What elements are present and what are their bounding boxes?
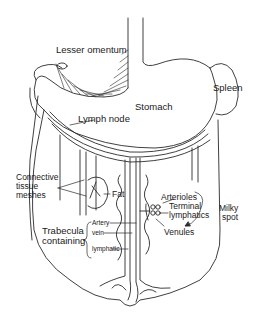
label-venules: Venules [164,228,194,237]
label-connective-3: meshes [16,191,46,200]
label-lymphatic: lymphatic [92,246,119,253]
label-vein: vein [92,230,104,237]
label-terminal-2: lymphatics [169,211,209,220]
label-milky-2: spot [222,213,238,222]
label-artery: Artery [92,220,109,227]
label-lesser-omentum: Lesser omentum [56,45,127,55]
label-lymph-node: Lymph node [78,114,130,124]
omentum-diagram: Lesser omentum Stomach Spleen Lymph node… [0,0,254,320]
label-stomach: Stomach [135,102,173,112]
anatomy-line-art [0,0,254,320]
label-spleen: Spleen [213,83,243,93]
label-fat: Fat [112,190,124,199]
label-trabecula-2: containing [42,236,85,246]
